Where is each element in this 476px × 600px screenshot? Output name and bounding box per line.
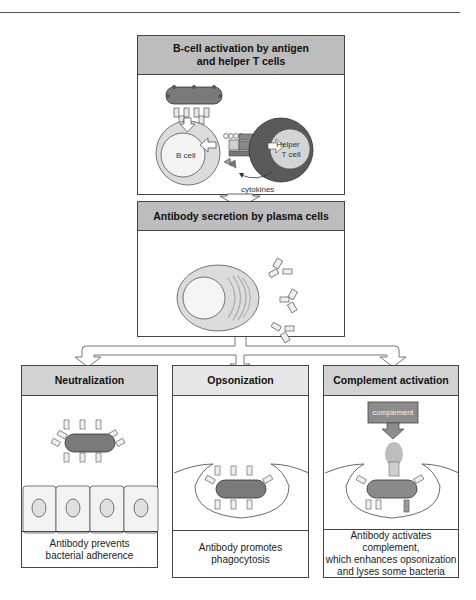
svg-text:B cell: B cell	[176, 151, 196, 160]
svg-text:Helper: Helper	[276, 140, 300, 149]
svg-text:complement: complement	[373, 408, 415, 417]
caption-line1: Antibody promotes	[199, 542, 282, 554]
svg-text:cytokines: cytokines	[241, 185, 274, 194]
antibody-icon	[269, 258, 298, 343]
caption-line2: which enhances opsonization	[326, 554, 457, 566]
helper-t-cell-icon: Helper T cell	[249, 118, 313, 182]
caption-line2: phagocytosis	[211, 554, 269, 566]
complement-box-icon: complement	[368, 402, 418, 439]
panel-antibody-secretion: Antibody secretion by plasma cells	[137, 201, 345, 337]
caption-line1: Antibody prevents	[49, 538, 129, 550]
caption-line2: bacterial adherence	[46, 550, 134, 562]
bacterium-icon	[166, 85, 222, 104]
panel-caption: Antibody activates complement, which enh…	[324, 529, 458, 577]
antibody-coated-bacterium-icon	[205, 466, 273, 509]
plasma-cell-icon	[177, 265, 259, 331]
activation-illustration: B cell Helper T cell cytokines	[138, 36, 346, 196]
top-rule	[0, 12, 460, 13]
panel-complement-activation: Complement activation complement Antibod…	[323, 365, 459, 578]
caption-line1: Antibody activates complement,	[324, 530, 458, 554]
panel-b-cell-activation: B-cell activation by antigen and helper …	[137, 35, 345, 195]
panel-opsonization: Opsonization Antibody promotes phagocyto…	[172, 365, 309, 578]
panel-caption: Antibody prevents bacterial adherence	[22, 531, 157, 567]
epithelial-cells-icon	[23, 486, 158, 533]
plasma-cell-illustration	[138, 202, 346, 338]
panel-caption: Antibody promotes phagocytosis	[173, 530, 308, 577]
panel-neutralization: Neutralization Antibody prevents bacteri…	[21, 365, 158, 568]
caption-line3: and lyses some bacteria	[337, 566, 445, 578]
antibody-coated-bacterium-icon	[51, 420, 125, 462]
antibody-coated-bacterium-icon	[356, 475, 424, 512]
b-cell-icon: B cell	[156, 118, 220, 185]
svg-text:T cell: T cell	[282, 150, 301, 159]
membrane-attack-complex-icon	[385, 442, 403, 476]
